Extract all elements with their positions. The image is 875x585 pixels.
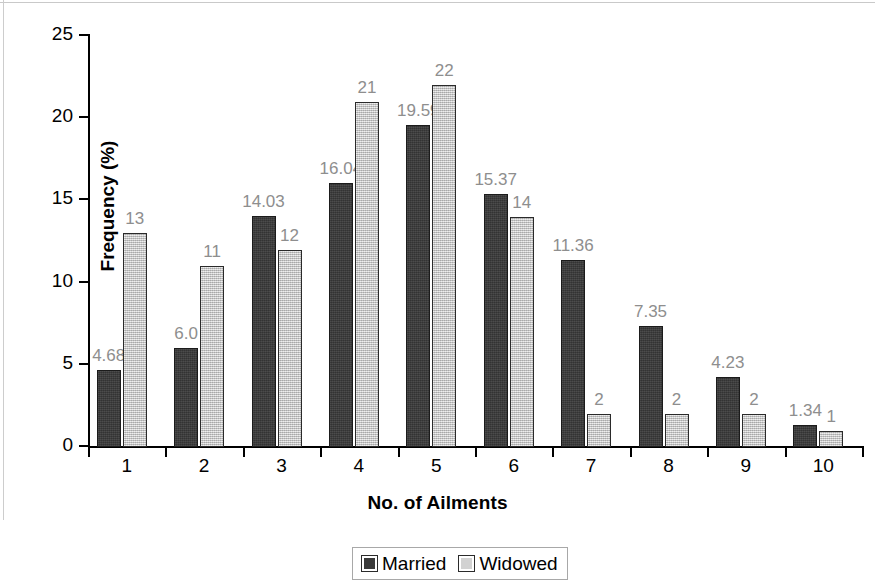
bar-value-label: 14 bbox=[492, 193, 552, 213]
x-axis-tick bbox=[320, 447, 322, 457]
bar-married-10[interactable] bbox=[793, 425, 817, 447]
x-axis-tick bbox=[785, 447, 787, 457]
bar-value-label: 14.03 bbox=[234, 192, 294, 212]
bar-married-7[interactable] bbox=[561, 260, 585, 447]
legend-item-widowed[interactable]: Widowed bbox=[459, 553, 557, 575]
bar-widowed-4[interactable] bbox=[355, 102, 379, 447]
bar-widowed-2[interactable] bbox=[200, 266, 224, 447]
bar-married-4[interactable] bbox=[329, 183, 353, 447]
bar-widowed-5[interactable] bbox=[432, 85, 456, 447]
chart-page: Frequency (%) No. of Ailments 0510152025… bbox=[0, 0, 875, 585]
bar-value-label: 2 bbox=[569, 390, 629, 410]
x-axis-tick bbox=[88, 447, 90, 457]
bar-value-label: 13 bbox=[105, 209, 165, 229]
bar-widowed-7[interactable] bbox=[587, 414, 611, 447]
x-axis-tick-label: 4 bbox=[329, 455, 389, 477]
bar-value-label: 12 bbox=[260, 226, 320, 246]
bar-married-9[interactable] bbox=[716, 377, 740, 447]
x-axis-tick bbox=[165, 447, 167, 457]
bar-value-label: 15.37 bbox=[466, 170, 526, 190]
y-axis-tick-label: 15 bbox=[52, 187, 73, 209]
x-axis-tick-label: 9 bbox=[716, 455, 776, 477]
bar-married-8[interactable] bbox=[639, 326, 663, 447]
bar-married-3[interactable] bbox=[252, 216, 276, 447]
bar-widowed-9[interactable] bbox=[742, 414, 766, 447]
y-axis-tick: 10 bbox=[79, 281, 88, 283]
bar-value-label: 22 bbox=[414, 61, 474, 81]
bar-widowed-8[interactable] bbox=[665, 414, 689, 447]
bar-married-6[interactable] bbox=[484, 194, 508, 447]
x-axis-tick bbox=[707, 447, 709, 457]
y-axis-tick: 0 bbox=[79, 445, 88, 447]
bar-widowed-6[interactable] bbox=[510, 217, 534, 447]
bar-value-label: 2 bbox=[647, 390, 707, 410]
scan-border-top bbox=[0, 2, 875, 3]
x-axis-title: No. of Ailments bbox=[0, 492, 875, 514]
y-axis-tick-label: 20 bbox=[52, 105, 73, 127]
bar-widowed-1[interactable] bbox=[123, 233, 147, 447]
legend-label-married: Married bbox=[382, 553, 446, 575]
x-axis-tick-label: 2 bbox=[174, 455, 234, 477]
y-axis-tick: 20 bbox=[79, 116, 88, 118]
plot-area: 05101520254.68136.01114.031216.042119.59… bbox=[88, 36, 862, 447]
scan-border-left bbox=[3, 0, 4, 520]
y-axis-tick-label: 5 bbox=[62, 352, 73, 374]
x-axis-tick bbox=[475, 447, 477, 457]
y-axis-tick: 15 bbox=[79, 198, 88, 200]
bar-married-1[interactable] bbox=[97, 370, 121, 447]
x-axis-tick-label: 6 bbox=[484, 455, 544, 477]
x-axis-tick bbox=[552, 447, 554, 457]
bar-value-label: 7.35 bbox=[621, 302, 681, 322]
bar-value-label: 21 bbox=[337, 78, 397, 98]
bar-value-label: 1 bbox=[801, 407, 861, 427]
y-axis-tick-label: 25 bbox=[52, 23, 73, 45]
y-axis-tick-label: 10 bbox=[52, 270, 73, 292]
bar-value-label: 4.23 bbox=[698, 353, 758, 373]
bar-widowed-10[interactable] bbox=[819, 431, 843, 447]
x-axis-tick-label: 7 bbox=[561, 455, 621, 477]
bar-married-5[interactable] bbox=[406, 125, 430, 447]
x-axis-tick-label: 10 bbox=[793, 455, 853, 477]
x-axis-tick-label: 8 bbox=[639, 455, 699, 477]
x-axis-tick bbox=[630, 447, 632, 457]
legend-label-widowed: Widowed bbox=[479, 553, 557, 575]
legend-swatch-married-icon bbox=[362, 556, 377, 571]
legend-swatch-widowed-icon bbox=[459, 556, 474, 571]
bar-widowed-3[interactable] bbox=[278, 250, 302, 447]
x-axis-tick bbox=[243, 447, 245, 457]
x-axis-tick-label: 3 bbox=[252, 455, 312, 477]
bar-value-label: 11.36 bbox=[543, 236, 603, 256]
chart-legend: Married Widowed bbox=[352, 547, 568, 580]
x-axis-tick-label: 1 bbox=[97, 455, 157, 477]
bar-value-label: 2 bbox=[724, 390, 784, 410]
bar-married-2[interactable] bbox=[174, 348, 198, 447]
x-axis-tick-label: 5 bbox=[406, 455, 466, 477]
x-axis-tick bbox=[862, 447, 864, 457]
x-axis-tick bbox=[398, 447, 400, 457]
y-axis-tick-label: 0 bbox=[62, 434, 73, 456]
legend-item-married[interactable]: Married bbox=[362, 553, 446, 575]
y-axis-tick: 25 bbox=[79, 34, 88, 36]
bar-value-label: 11 bbox=[182, 242, 242, 262]
